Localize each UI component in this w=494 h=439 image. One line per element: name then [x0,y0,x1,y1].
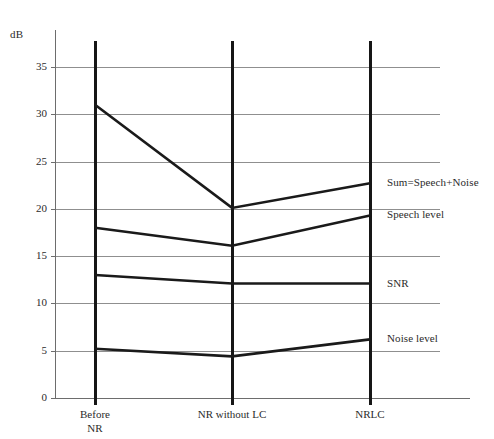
y-tick-label-15: 15 [21,249,47,261]
series-label-1: Speech level [387,208,444,220]
y-tick-label-5: 5 [21,344,47,356]
y-tick-label-35: 35 [21,60,47,72]
x-tick-mark-group [96,398,371,405]
y-tick-label-10: 10 [21,296,47,308]
x-tick-label-0: Before NR [35,407,155,435]
y-tick-label-30: 30 [21,107,47,119]
y-tick-label-25: 25 [21,155,47,167]
series-label-0: Sum=Speech+Noise [387,176,479,188]
gridline-group [55,68,440,352]
series-label-2: SNR [387,277,409,289]
y-tick-label-0: 0 [21,391,47,403]
series-label-3: Noise level [387,332,438,344]
y-tick-label-20: 20 [21,202,47,214]
chart-container: dB 05101520253035 Before NRNR without LC… [0,0,494,439]
x-tick-label-2: NRLC [310,407,430,421]
y-tick-mark-group [51,68,55,399]
x-tick-label-1: NR without LC [172,407,292,421]
